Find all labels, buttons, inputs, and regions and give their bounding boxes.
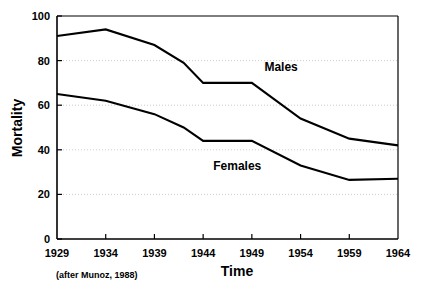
series-annotations: MalesFemales	[213, 60, 298, 173]
y-tick-label-80: 80	[38, 55, 50, 67]
x-tick-label-1964: 1964	[386, 247, 411, 259]
gridlines	[57, 61, 398, 195]
x-axis-title: Time	[221, 263, 254, 279]
x-tick-label-1954: 1954	[288, 247, 313, 259]
data-series-group	[57, 29, 398, 180]
x-tick-label-1944: 1944	[191, 247, 216, 259]
series-label-females: Females	[213, 159, 261, 173]
y-tick-label-100: 100	[32, 10, 50, 22]
plot-frame	[57, 16, 398, 239]
x-tick-label-1949: 1949	[240, 247, 264, 259]
chart-canvas: 020406080100 192919341939194419491954195…	[0, 0, 423, 294]
series-line-males	[57, 29, 398, 145]
x-tick-label-1939: 1939	[142, 247, 166, 259]
x-tick-label-1929: 1929	[45, 247, 69, 259]
x-axis-tick-labels: 19291934193919441949195419591964	[45, 247, 411, 259]
mortality-line-chart: 020406080100 192919341939194419491954195…	[0, 0, 423, 294]
source-caption: (after Munoz, 1988)	[56, 270, 138, 280]
x-tick-label-1959: 1959	[337, 247, 361, 259]
y-tick-label-0: 0	[44, 233, 50, 245]
y-tick-label-60: 60	[38, 99, 50, 111]
series-label-males: Males	[264, 60, 298, 74]
y-tick-label-40: 40	[38, 144, 50, 156]
y-axis-tick-labels: 020406080100	[32, 10, 50, 245]
x-tick-label-1934: 1934	[93, 247, 118, 259]
y-tick-label-20: 20	[38, 188, 50, 200]
y-axis-title: Mortality	[9, 99, 25, 158]
